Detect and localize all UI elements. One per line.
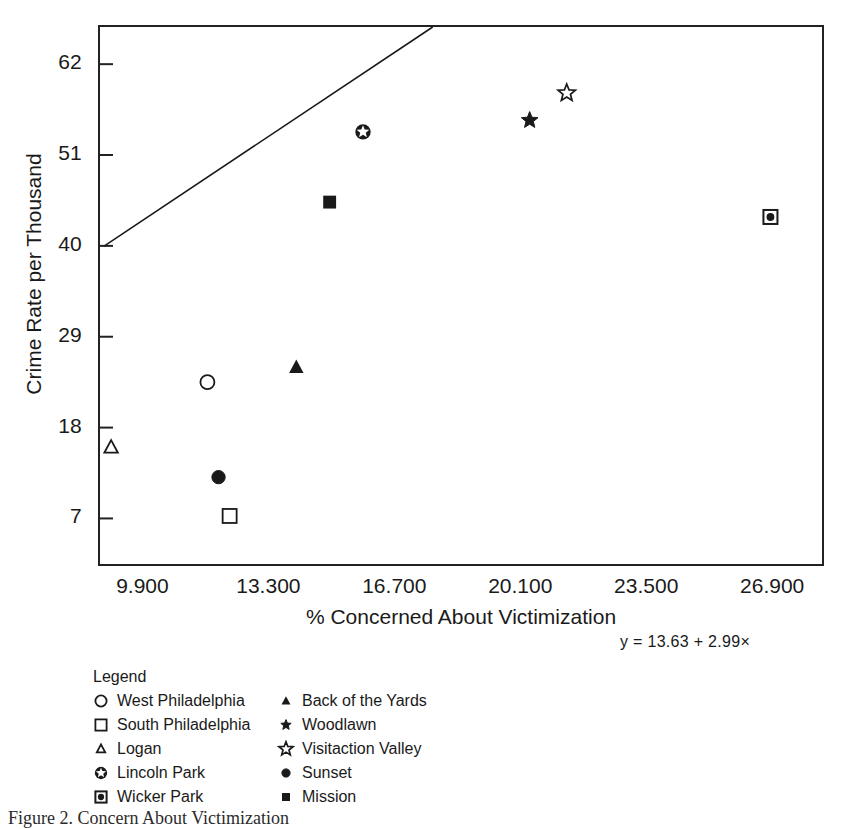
legend-entry: Woodlawn — [277, 716, 512, 734]
legend-marker-square-dot-icon — [92, 788, 110, 806]
legend-entry: Logan — [92, 740, 277, 758]
legend: Legend West PhiladelphiaBack of the Yard… — [92, 668, 522, 809]
x-tick-label: 13.300 — [236, 574, 300, 598]
y-tick-label: 40 — [58, 232, 82, 256]
legend-label: Lincoln Park — [117, 764, 205, 782]
legend-entry: Mission — [277, 788, 512, 806]
legend-label: South Philadelphia — [117, 716, 250, 734]
legend-entry: West Philadelphia — [92, 692, 277, 710]
point-marker-open-star[interactable] — [279, 742, 293, 755]
point-marker-circle-star[interactable] — [95, 767, 107, 779]
point-marker-open-triangle[interactable] — [97, 744, 105, 752]
point-marker-filled-circle[interactable] — [282, 769, 290, 777]
data-point[interactable]: West Philadelphia — [200, 375, 214, 389]
legend-marker-open-circle-icon — [92, 692, 110, 710]
point-marker-square-dot[interactable] — [95, 791, 106, 802]
legend-marker-filled-circle-icon — [277, 764, 295, 782]
legend-marker-open-triangle-icon — [92, 740, 110, 758]
data-point[interactable]: Woodlawn — [521, 112, 538, 128]
y-tick-label: 51 — [58, 141, 82, 165]
data-point[interactable]: Wicker Park — [763, 210, 777, 224]
x-axis-title: % Concerned About Victimization — [98, 605, 824, 629]
data-point[interactable]: Back of the Yards — [289, 359, 303, 372]
point-marker-filled-triangle[interactable] — [282, 696, 291, 704]
data-point[interactable]: Sunset — [212, 471, 225, 484]
point-marker-open-square[interactable] — [95, 719, 106, 730]
legend-label: Back of the Yards — [302, 692, 427, 710]
y-tick-label: 7 — [70, 504, 82, 528]
x-tick-label: 20.100 — [488, 574, 552, 598]
legend-marker-open-square-icon — [92, 716, 110, 734]
data-point[interactable]: Lincoln Park — [355, 124, 370, 139]
legend-entry: South Philadelphia — [92, 716, 277, 734]
legend-marker-filled-star-icon — [277, 716, 295, 734]
data-point[interactable]: South Philadelphia — [223, 509, 237, 523]
legend-entry: Visitaction Valley — [277, 740, 512, 758]
data-point[interactable]: Mission — [323, 196, 336, 209]
plot-canvas: West PhiladelphiaSouth PhiladelphiaLogan… — [100, 27, 826, 568]
x-tick-label: 23.500 — [614, 574, 678, 598]
legend-marker-filled-square-icon — [277, 788, 295, 806]
regression-line — [104, 27, 433, 246]
plot-area: West PhiladelphiaSouth PhiladelphiaLogan… — [98, 25, 824, 566]
legend-title: Legend — [92, 668, 522, 686]
x-tick-label: 9.900 — [116, 574, 169, 598]
legend-label: Wicker Park — [117, 788, 203, 806]
legend-label: Visitaction Valley — [302, 740, 421, 758]
figure-caption: Figure 2. Concern About Victimization — [8, 808, 289, 829]
y-tick-label: 29 — [58, 323, 82, 347]
legend-marker-open-star-icon — [277, 740, 295, 758]
point-marker-open-circle[interactable] — [95, 695, 106, 706]
legend-label: Sunset — [302, 764, 352, 782]
legend-label: Logan — [117, 740, 162, 758]
legend-label: Woodlawn — [302, 716, 376, 734]
legend-entries: West PhiladelphiaBack of the YardsSouth … — [92, 689, 522, 809]
legend-entry: Lincoln Park — [92, 764, 277, 782]
legend-entry: Wicker Park — [92, 788, 277, 806]
data-point[interactable]: Logan — [104, 440, 118, 453]
y-tick-label: 18 — [58, 414, 82, 438]
legend-entry: Back of the Yards — [277, 692, 512, 710]
x-tick-label: 26.900 — [740, 574, 804, 598]
legend-marker-filled-triangle-icon — [277, 692, 295, 710]
y-tick-label: 62 — [58, 50, 82, 74]
y-axis-tick-labels: 71829405162 — [30, 25, 82, 566]
point-marker-filled-square[interactable] — [282, 793, 290, 801]
x-tick-label: 16.700 — [362, 574, 426, 598]
x-axis-tick-labels: 9.90013.30016.70020.10023.50026.900 — [98, 574, 824, 602]
legend-entry: Sunset — [277, 764, 512, 782]
regression-equation-annotation: y = 13.63 + 2.99× — [620, 633, 750, 651]
legend-marker-circle-star-icon — [92, 764, 110, 782]
legend-label: Mission — [302, 788, 356, 806]
point-marker-filled-star[interactable] — [281, 720, 291, 730]
data-point[interactable]: Visitaction Valley — [558, 84, 575, 100]
legend-label: West Philadelphia — [117, 692, 245, 710]
